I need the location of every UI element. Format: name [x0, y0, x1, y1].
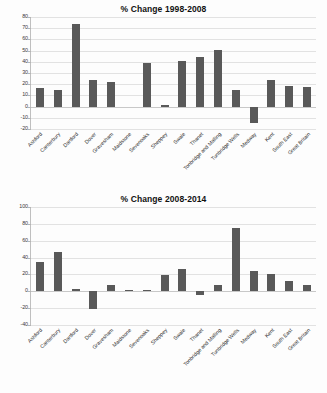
x-tick-slot: Kent [262, 325, 280, 387]
bar[interactable] [303, 87, 311, 107]
bar-slot[interactable] [120, 207, 138, 325]
bar-slot[interactable] [67, 17, 85, 129]
bar[interactable] [54, 252, 62, 292]
y-tick-label: -20 [21, 305, 29, 310]
x-tick-slot: Ashford [30, 325, 48, 387]
bar[interactable] [214, 50, 222, 107]
bar-series [31, 17, 316, 129]
bar[interactable] [178, 61, 186, 107]
x-tick-slot: Great Britain [298, 325, 316, 387]
bar[interactable] [143, 63, 151, 106]
bar[interactable] [161, 105, 169, 107]
bar[interactable] [196, 291, 204, 295]
bar-slot[interactable] [209, 207, 227, 325]
x-tick-label: Swale [172, 131, 186, 145]
bar-slot[interactable] [245, 207, 263, 325]
bar-slot[interactable] [263, 207, 281, 325]
y-axis: 100806040200-20-40 [8, 207, 30, 325]
x-tick-slot: Gravesham [102, 325, 120, 387]
bar-slot[interactable] [31, 17, 49, 129]
bar-slot[interactable] [191, 17, 209, 129]
plot-area: 100806040200-20-40 [8, 207, 318, 325]
chart-2008-2014: % Change 2008-2014 100806040200-20-40 As… [0, 190, 327, 393]
x-tick-label: Thanet [188, 131, 204, 147]
x-tick-label: Ashford [26, 327, 43, 344]
x-tick-slot: Gravesham [102, 129, 120, 191]
charts-page: % Change 1998-2008 80706050403020100-10-… [0, 0, 327, 393]
bar-slot[interactable] [280, 17, 298, 129]
bar-slot[interactable] [245, 17, 263, 129]
bar-slot[interactable] [138, 207, 156, 325]
bar-slot[interactable] [120, 17, 138, 129]
bar[interactable] [196, 57, 204, 106]
bar-slot[interactable] [31, 207, 49, 325]
x-tick-slot: Sheppey [155, 129, 173, 191]
bar-slot[interactable] [102, 207, 120, 325]
bar-slot[interactable] [298, 207, 316, 325]
bar[interactable] [178, 269, 186, 292]
bar-slot[interactable] [49, 17, 67, 129]
bar-slot[interactable] [84, 207, 102, 325]
x-tick-labels: AshfordCanterburyDartfordDoverGraveshamM… [30, 325, 316, 387]
x-tick-slot: South East [280, 129, 298, 191]
bar[interactable] [232, 90, 240, 106]
x-tick-slot: Kent [262, 129, 280, 191]
bar-slot[interactable] [174, 207, 192, 325]
bar-slot[interactable] [227, 17, 245, 129]
bar[interactable] [36, 88, 44, 106]
bar-slot[interactable] [174, 17, 192, 129]
bar[interactable] [285, 86, 293, 107]
bar[interactable] [107, 82, 115, 107]
bar[interactable] [232, 228, 240, 291]
bar-series [31, 207, 316, 325]
bar[interactable] [250, 271, 258, 291]
x-tick-slot: Dover [84, 129, 102, 191]
y-tick-label: -10 [21, 115, 29, 120]
bar[interactable] [89, 291, 97, 309]
bar-slot[interactable] [67, 207, 85, 325]
x-tick-slot: Maidstone [119, 325, 137, 387]
x-tick-label: Thanet [188, 327, 204, 343]
bar[interactable] [285, 281, 293, 291]
x-tick-slot: Tunbridge Wells [227, 325, 245, 387]
bar-slot[interactable] [156, 207, 174, 325]
x-tick-slot: Ashford [30, 129, 48, 191]
x-axis: AshfordCanterburyDartfordDoverGraveshamM… [8, 129, 318, 191]
x-tick-slot: Canterbury [48, 129, 66, 191]
bar[interactable] [214, 285, 222, 291]
bar-slot[interactable] [156, 17, 174, 129]
bar-slot[interactable] [49, 207, 67, 325]
bar[interactable] [54, 90, 62, 106]
bar-slot[interactable] [102, 17, 120, 129]
bar[interactable] [303, 285, 311, 292]
bar-slot[interactable] [298, 17, 316, 129]
x-tick-slot: Medway [245, 129, 263, 191]
chart-title: % Change 1998-2008 [0, 0, 327, 17]
bar[interactable] [143, 290, 151, 291]
bar-slot[interactable] [138, 17, 156, 129]
bar[interactable] [72, 24, 80, 107]
bar[interactable] [267, 80, 275, 107]
bar[interactable] [89, 80, 97, 106]
x-tick-slot: Dartford [66, 325, 84, 387]
bar[interactable] [72, 289, 80, 292]
bar-slot[interactable] [191, 207, 209, 325]
x-tick-slot: Sheppey [155, 325, 173, 387]
x-tick-label: Dover [83, 327, 97, 341]
bar-slot[interactable] [227, 207, 245, 325]
bar[interactable] [36, 262, 44, 292]
bar[interactable] [125, 290, 133, 291]
y-axis: 80706050403020100-10-20 [8, 17, 30, 129]
bar-slot[interactable] [209, 17, 227, 129]
bar[interactable] [250, 107, 258, 124]
bar[interactable] [161, 275, 169, 291]
x-axis: AshfordCanterburyDartfordDoverGraveshamM… [8, 325, 318, 387]
bar-slot[interactable] [84, 17, 102, 129]
x-tick-slot: Canterbury [48, 325, 66, 387]
grid-area [30, 207, 316, 325]
bar-slot[interactable] [263, 17, 281, 129]
bar-slot[interactable] [280, 207, 298, 325]
bar[interactable] [267, 274, 275, 292]
chart-title: % Change 2008-2014 [0, 190, 327, 207]
bar[interactable] [107, 285, 115, 292]
